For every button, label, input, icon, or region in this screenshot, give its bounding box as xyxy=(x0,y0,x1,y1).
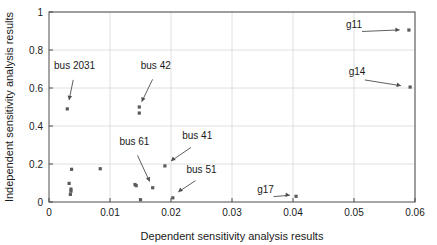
x-tick-label: 0.02 xyxy=(161,207,181,218)
y-tick-label: 1 xyxy=(37,7,43,18)
data-points xyxy=(66,28,412,201)
annotation-leader-line xyxy=(137,155,149,181)
annotation-leader-line xyxy=(365,80,401,86)
annotation-arrowhead xyxy=(285,193,289,198)
scatter-point xyxy=(69,193,72,196)
scatter-point xyxy=(139,198,142,201)
scatter-point xyxy=(138,111,141,114)
y-axis-label: Independent sensitivity analysis results xyxy=(3,11,15,202)
scatter-point xyxy=(171,196,174,199)
x-tick-label: 0.05 xyxy=(344,207,364,218)
scatter-point xyxy=(409,85,412,88)
scatter-point xyxy=(407,28,410,31)
y-tick-label: 0.2 xyxy=(29,159,43,170)
scatter-plot-figure: 00.010.020.030.040.050.06 00.20.40.60.81… xyxy=(0,0,437,245)
scatter-point xyxy=(68,182,71,185)
annotation-label: bus 41 xyxy=(182,130,212,141)
chart-canvas: 00.010.020.030.040.050.06 00.20.40.60.81… xyxy=(0,0,437,245)
x-tick-label: 0 xyxy=(46,207,52,218)
y-tick-label: 0.8 xyxy=(29,45,43,56)
annotation-arrowhead xyxy=(396,82,401,86)
y-tick-label: 0.6 xyxy=(29,83,43,94)
annotation-arrowhead xyxy=(395,27,399,32)
annotation-label: bus 2031 xyxy=(54,60,96,71)
x-tick-label: 0.04 xyxy=(283,207,303,218)
y-tick-label: 0 xyxy=(37,197,43,208)
scatter-point xyxy=(135,184,138,187)
annotations: bus 2031bus 42bus 61bus 41bus 51g17g11g1… xyxy=(54,19,401,197)
annotation-label: g14 xyxy=(349,66,366,77)
scatter-point xyxy=(66,107,69,110)
x-tick-label: 0.03 xyxy=(222,207,242,218)
annotation-leader-line xyxy=(362,30,400,32)
scatter-point xyxy=(138,105,141,108)
annotation-label: bus 51 xyxy=(186,164,216,175)
annotation-arrowhead xyxy=(68,96,73,101)
annotation-label: bus 61 xyxy=(119,136,149,147)
scatter-point xyxy=(294,195,297,198)
x-axis-ticks: 00.010.020.030.040.050.06 xyxy=(46,198,425,218)
x-tick-label: 0.06 xyxy=(405,207,425,218)
y-tick-label: 0.4 xyxy=(29,121,43,132)
annotation-label: bus 42 xyxy=(141,60,171,71)
x-axis-label: Dependent sensitivity analysis results xyxy=(141,230,324,242)
annotation-label: g17 xyxy=(257,184,274,195)
annotation-label: g11 xyxy=(346,19,362,30)
scatter-point xyxy=(163,164,166,167)
scatter-point xyxy=(69,190,72,193)
scatter-point xyxy=(99,167,102,170)
scatter-point xyxy=(151,186,154,189)
x-tick-label: 0.01 xyxy=(100,207,120,218)
grid-lines xyxy=(49,12,415,202)
scatter-point xyxy=(70,168,73,171)
